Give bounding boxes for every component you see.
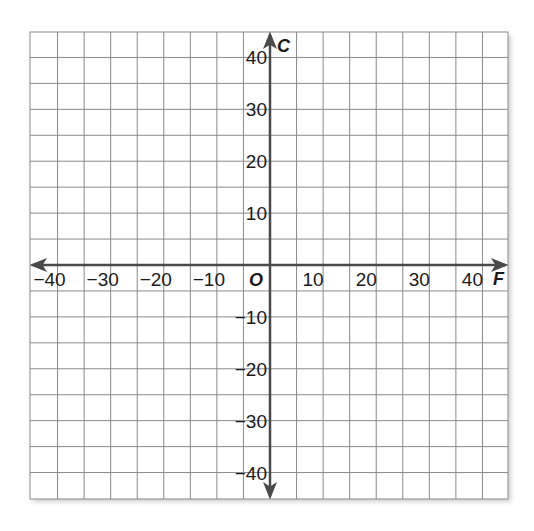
x-tick-label: 10 xyxy=(303,269,324,290)
y-tick-label: 30 xyxy=(246,99,267,120)
y-tick-label: −20 xyxy=(235,359,267,380)
x-tick-label: 20 xyxy=(356,269,377,290)
x-axis-label: F xyxy=(493,269,505,289)
y-tick-label: −10 xyxy=(235,307,267,328)
y-tick-label: −40 xyxy=(235,463,267,484)
x-tick-label: −20 xyxy=(140,269,172,290)
y-tick-label: 20 xyxy=(246,151,267,172)
x-tick-label: −10 xyxy=(193,269,225,290)
coordinate-plane: −40−30−20−1010203040 40302010−10−20−30−4… xyxy=(0,0,534,531)
x-tick-label: 40 xyxy=(462,269,483,290)
x-tick-label: −30 xyxy=(87,269,119,290)
y-tick-label: 10 xyxy=(246,203,267,224)
y-tick-label: 40 xyxy=(246,47,267,68)
origin-label: O xyxy=(249,270,263,290)
x-tick-label: −40 xyxy=(33,269,65,290)
x-tick-label: 30 xyxy=(409,269,430,290)
y-tick-label: −30 xyxy=(235,411,267,432)
y-axis-label: C xyxy=(277,36,291,56)
